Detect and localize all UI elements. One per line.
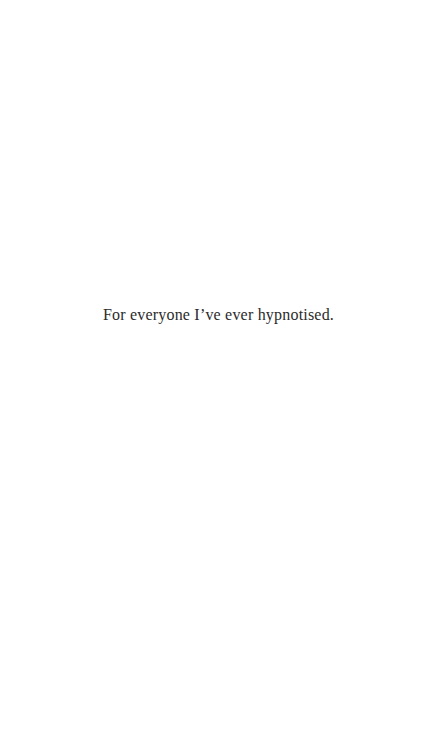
dedication-text: For everyone I’ve ever hypnotised. [0,305,437,325]
book-page: For everyone I’ve ever hypnotised. [0,0,441,753]
